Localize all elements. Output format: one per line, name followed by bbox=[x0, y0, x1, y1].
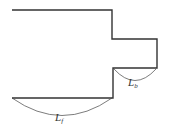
dimension-arc-lf bbox=[12, 98, 112, 116]
label-lf: Lf bbox=[54, 111, 64, 125]
dimension-arc-lb bbox=[114, 69, 156, 81]
label-lb: Lb bbox=[127, 76, 138, 90]
diagram-canvas: Lb Lf bbox=[0, 0, 171, 135]
